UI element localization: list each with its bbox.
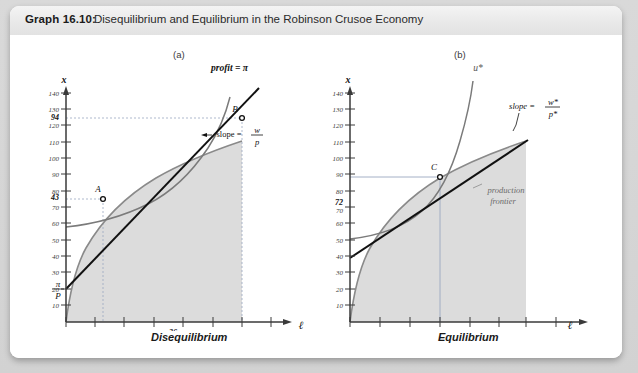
svg-text:30: 30 xyxy=(150,330,159,331)
figure-number: Graph 16.10: xyxy=(25,13,96,25)
chart-panel-b: 140 130 120 110 100 90 80 70 60 50 40 30… xyxy=(310,41,620,331)
x-axis-arrow-b xyxy=(579,319,588,325)
chart-panel-a: 140 130 120 110 100 90 80 70 60 50 40 30… xyxy=(14,41,314,331)
x-axis-title-b: ℓ xyxy=(568,319,573,331)
y-axis-arrow-b xyxy=(347,86,353,95)
y-tick-label-43: 43 xyxy=(50,193,59,202)
slope-denominator-a: p xyxy=(254,137,259,147)
svg-text:90: 90 xyxy=(52,171,60,179)
svg-text:30: 30 xyxy=(436,330,445,331)
slope-leader-line-b xyxy=(513,113,519,131)
profit-annotation: profit = π xyxy=(210,63,249,73)
svg-text:10: 10 xyxy=(52,302,60,310)
svg-text:30: 30 xyxy=(335,269,344,277)
data-point-B[interactable] xyxy=(240,116,245,121)
svg-text:100: 100 xyxy=(333,155,344,163)
svg-text:110: 110 xyxy=(333,139,343,147)
svg-text:0: 0 xyxy=(348,330,352,331)
svg-text:60: 60 xyxy=(523,330,531,331)
svg-text:120: 120 xyxy=(49,122,60,130)
intercept-label-numerator: π xyxy=(56,279,61,289)
intercept-label-denominator: P xyxy=(54,291,61,301)
page-title: Disequilibrium and Equilibrium in the Ro… xyxy=(94,13,423,25)
production-set-shading-b xyxy=(350,141,526,322)
svg-text:60: 60 xyxy=(52,220,60,228)
svg-text:70: 70 xyxy=(336,207,344,215)
svg-text:140: 140 xyxy=(333,90,344,98)
frontier-annotation-line2: frontier xyxy=(490,196,516,206)
caption-equilibrium: Equilibrium xyxy=(438,331,499,343)
svg-text:50: 50 xyxy=(336,237,344,245)
slope-numerator-b: w* xyxy=(548,97,559,107)
svg-text:40: 40 xyxy=(336,253,344,261)
svg-text:10: 10 xyxy=(377,330,385,331)
svg-text:130: 130 xyxy=(333,106,344,114)
y-axis-title-a: x xyxy=(61,74,67,85)
svg-text:140: 140 xyxy=(49,90,60,98)
slope-leader-arrow-a xyxy=(201,133,207,137)
y-tick-label-94: 94 xyxy=(51,113,59,122)
y-axis-title-b: x xyxy=(345,74,351,85)
data-point-A[interactable] xyxy=(101,197,106,202)
svg-text:0: 0 xyxy=(64,330,68,331)
slope-numerator-a: w xyxy=(254,125,260,135)
svg-text:20: 20 xyxy=(407,330,415,331)
svg-text:70: 70 xyxy=(52,204,60,212)
x-axis-arrow-a xyxy=(283,319,292,325)
svg-text:60: 60 xyxy=(336,220,344,228)
slope-annotation-b: slope = xyxy=(509,101,535,111)
svg-text:50: 50 xyxy=(496,330,504,331)
production-set-shading-a xyxy=(66,141,242,322)
svg-text:40: 40 xyxy=(183,330,191,331)
y-tick-label-72: 72 xyxy=(335,198,343,207)
figure-card: Graph 16.10: Disequilibrium and Equilibr… xyxy=(10,6,622,358)
slope-denominator-b: p* xyxy=(548,109,558,119)
data-point-C[interactable] xyxy=(438,175,443,180)
svg-text:20: 20 xyxy=(121,330,129,331)
svg-text:50: 50 xyxy=(210,330,218,331)
svg-text:40: 40 xyxy=(467,330,475,331)
svg-text:40: 40 xyxy=(52,253,60,261)
page-root: Graph 16.10: Disequilibrium and Equilibr… xyxy=(0,0,638,373)
svg-text:100: 100 xyxy=(49,155,60,163)
svg-text:10: 10 xyxy=(90,330,98,331)
svg-text:70: 70 xyxy=(553,330,561,331)
data-point-label-C: C xyxy=(431,162,438,172)
x-tick-label-60: 60 xyxy=(238,329,248,331)
frontier-annotation-line1: production xyxy=(487,185,525,195)
svg-text:50: 50 xyxy=(52,237,60,245)
utility-curve-label: u* xyxy=(473,63,483,73)
svg-text:80: 80 xyxy=(336,188,344,196)
x-tick-label-36: 36 xyxy=(168,328,177,331)
slope-annotation-a: slope = xyxy=(217,129,242,139)
svg-text:10: 10 xyxy=(336,302,344,310)
figure-body: (a) (b) Disequilibrium Equilibrium xyxy=(10,35,622,358)
data-point-label-B: B xyxy=(232,104,238,114)
x-tick-labels-b: 0 10 20 30 40 50 60 70 xyxy=(348,330,560,331)
svg-text:90: 90 xyxy=(336,171,344,179)
svg-text:110: 110 xyxy=(49,139,59,147)
y-axis-arrow-a xyxy=(63,86,69,95)
svg-text:20: 20 xyxy=(336,286,344,294)
svg-text:120: 120 xyxy=(333,122,344,130)
data-point-label-A: A xyxy=(94,184,101,194)
figure-titlebar: Graph 16.10: Disequilibrium and Equilibr… xyxy=(10,6,622,36)
caption-disequilibrium: Disequilibrium xyxy=(151,331,227,343)
svg-text:70: 70 xyxy=(268,330,276,331)
x-axis-title-a: ℓ xyxy=(299,319,304,331)
svg-text:30: 30 xyxy=(51,269,60,277)
